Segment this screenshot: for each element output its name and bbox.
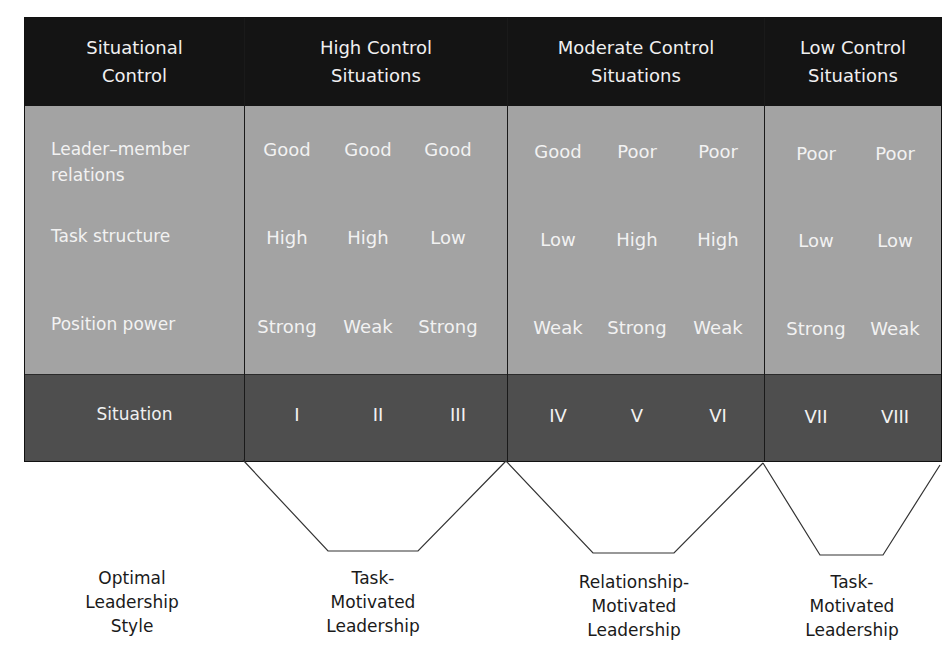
leadership-style-moderate-control: Relationship- Motivated Leadership — [579, 570, 690, 642]
funnel-high-control — [243, 460, 506, 551]
optimal-leadership-style-label: Optimal Leadership Style — [85, 566, 178, 638]
funnel-moderate-control — [506, 461, 763, 553]
leadership-style-low-control: Task- Motivated Leadership — [805, 570, 898, 642]
funnel-connectors — [0, 0, 948, 662]
leadership-style-high-control: Task- Motivated Leadership — [326, 566, 419, 638]
funnel-low-control — [763, 463, 940, 555]
